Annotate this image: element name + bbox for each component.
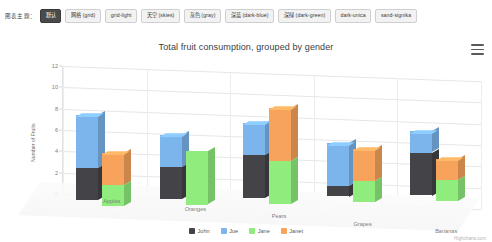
bar-face xyxy=(436,180,458,201)
bar-segment[interactable] xyxy=(327,186,349,197)
bar-face xyxy=(410,131,432,152)
bar-face xyxy=(353,181,375,202)
bar-side xyxy=(458,176,465,201)
bar-segment[interactable] xyxy=(410,153,432,196)
bar-face xyxy=(76,115,98,168)
legend-swatch-john xyxy=(189,228,195,234)
bar-segment[interactable] xyxy=(436,159,458,180)
chart-container: Total fruit consumption, grouped by gend… xyxy=(0,32,492,242)
theme-button-grid[interactable]: 网格 (grid) xyxy=(65,9,101,23)
menu-bar-1 xyxy=(471,44,484,46)
bar-stack[interactable] xyxy=(269,108,291,204)
theme-selector-label: 图表主题： xyxy=(5,12,36,20)
bar-stack[interactable] xyxy=(76,115,98,200)
bar-face xyxy=(353,149,375,181)
bar-side xyxy=(291,157,298,204)
bar-face xyxy=(243,155,265,198)
gridline-horizontal xyxy=(63,66,481,82)
bar-segment[interactable] xyxy=(76,115,98,168)
plot-area: ApplesOrangesPearsGrapesBananas xyxy=(40,66,480,214)
bar-side xyxy=(208,147,215,204)
bar-face xyxy=(436,159,458,180)
bar-face xyxy=(160,135,182,167)
bar-segment[interactable] xyxy=(243,155,265,198)
theme-button-sand-signika[interactable]: sand-signika xyxy=(375,9,417,23)
legend-label-janet: Janet xyxy=(289,228,303,234)
bar-side xyxy=(291,104,298,161)
bar-stack[interactable] xyxy=(160,135,182,199)
theme-button-grid-light[interactable]: grid-light xyxy=(105,9,137,23)
bar-side xyxy=(375,177,382,202)
bar-segment[interactable] xyxy=(160,167,182,199)
bar-stack[interactable] xyxy=(327,143,349,196)
theme-button-skies[interactable]: 天空 (skies) xyxy=(141,9,180,23)
legend-swatch-jane xyxy=(249,228,255,234)
x-axis-label: Oranges xyxy=(185,206,206,212)
gridline-vertical xyxy=(230,72,231,200)
legend-item-joe[interactable]: Joe xyxy=(221,228,239,234)
gridline-horizontal xyxy=(63,87,481,103)
bar-segment[interactable] xyxy=(243,123,265,155)
bar-side xyxy=(124,181,131,206)
legend-label-joe: Joe xyxy=(229,228,238,234)
theme-button-gray[interactable]: 灰色 (gray) xyxy=(184,9,221,23)
chart-page: 图表主题： 默认 网格 (grid) grid-light 天空 (skies)… xyxy=(0,0,492,242)
hamburger-menu-icon[interactable] xyxy=(471,44,484,55)
x-axis-label: Apples xyxy=(103,198,120,204)
legend-label-john: John xyxy=(198,228,210,234)
bar-top xyxy=(327,142,355,146)
gridline-vertical xyxy=(63,66,64,194)
theme-button-dark-green[interactable]: 深绿 (dark-green) xyxy=(278,9,331,23)
gridline-vertical xyxy=(397,78,398,206)
bar-segment[interactable] xyxy=(353,181,375,202)
menu-bar-3 xyxy=(471,53,484,55)
gridline-vertical xyxy=(314,75,315,203)
bar-face xyxy=(410,153,432,196)
bar-face xyxy=(76,168,98,200)
bar-segment[interactable] xyxy=(160,135,182,167)
chart-title: Total fruit consumption, grouped by gend… xyxy=(0,42,492,52)
legend-swatch-janet xyxy=(281,228,287,234)
legend-swatch-joe xyxy=(221,228,227,234)
bar-stack[interactable] xyxy=(353,149,375,202)
bar-face xyxy=(269,108,291,161)
bar-segment[interactable] xyxy=(186,151,208,204)
bar-face xyxy=(186,151,208,204)
x-axis-label: Grapes xyxy=(353,221,371,227)
legend-item-janet[interactable]: Janet xyxy=(281,228,303,234)
bar-segment[interactable] xyxy=(102,153,124,185)
theme-button-dark-blue[interactable]: 深蓝 (dark-blue) xyxy=(225,9,274,23)
y-axis-title: Number of Fruits xyxy=(30,123,36,162)
legend-label-jane: Jane xyxy=(258,228,270,234)
bar-segment[interactable] xyxy=(436,180,458,201)
bar-face xyxy=(327,143,349,186)
chart-credits: Highcharts.com xyxy=(454,236,486,241)
bar-segment[interactable] xyxy=(353,149,375,181)
bar-stack[interactable] xyxy=(410,131,432,195)
bar-stack[interactable] xyxy=(186,151,208,204)
theme-button-dark-unica[interactable]: dark-unica xyxy=(335,9,371,23)
bar-segment[interactable] xyxy=(327,143,349,186)
gridline-vertical xyxy=(147,69,148,197)
bar-face xyxy=(160,167,182,199)
menu-bar-2 xyxy=(471,49,484,51)
legend-item-jane[interactable]: Jane xyxy=(249,228,270,234)
bar-face xyxy=(327,186,349,197)
bar-segment[interactable] xyxy=(410,131,432,152)
bar-face xyxy=(102,153,124,185)
x-axis-label: Pears xyxy=(272,213,287,219)
bar-segment[interactable] xyxy=(269,161,291,204)
bar-face xyxy=(243,123,265,155)
chart-legend: John Joe Jane Janet xyxy=(0,228,492,234)
bar-segment[interactable] xyxy=(76,168,98,200)
bar-segment[interactable] xyxy=(269,108,291,161)
gridline-vertical xyxy=(481,81,482,209)
theme-button-default[interactable]: 默认 xyxy=(40,9,61,23)
bar-stack[interactable] xyxy=(243,123,265,198)
legend-item-john[interactable]: John xyxy=(189,228,210,234)
theme-selector-toolbar: 图表主题： 默认 网格 (grid) grid-light 天空 (skies)… xyxy=(0,0,492,32)
bar-stack[interactable] xyxy=(436,159,458,202)
bar-face xyxy=(269,161,291,204)
